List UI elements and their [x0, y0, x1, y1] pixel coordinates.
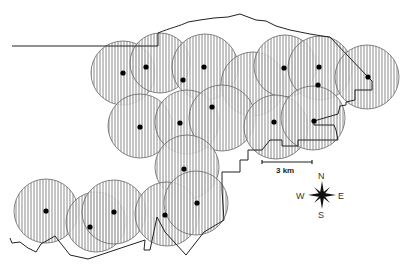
site-point: [271, 119, 276, 124]
buffer-circles: [14, 33, 399, 252]
site-point: [315, 82, 320, 87]
site-point: [120, 70, 125, 75]
compass-north-label: N: [318, 171, 325, 181]
site-point: [209, 104, 214, 109]
site-point: [281, 65, 286, 70]
compass-rose-icon: [308, 181, 336, 209]
compass-east-label: E: [338, 191, 344, 201]
site-point: [162, 212, 167, 217]
site-point: [137, 124, 142, 129]
site-point: [194, 200, 199, 205]
site-point: [43, 208, 48, 213]
compass-west-label: W: [296, 191, 305, 201]
site-point: [365, 74, 370, 79]
scale-bar: [262, 160, 312, 164]
site-point: [177, 120, 182, 125]
site-point: [201, 64, 206, 69]
site-point: [180, 77, 185, 82]
site-point: [87, 224, 92, 229]
map-canvas: [0, 0, 412, 271]
site-point: [143, 64, 148, 69]
site-point: [181, 166, 186, 171]
site-point: [311, 118, 316, 123]
site-point: [111, 209, 116, 214]
scale-bar-label: 3 km: [276, 166, 294, 175]
compass-south-label: S: [318, 210, 324, 220]
site-point: [316, 64, 321, 69]
